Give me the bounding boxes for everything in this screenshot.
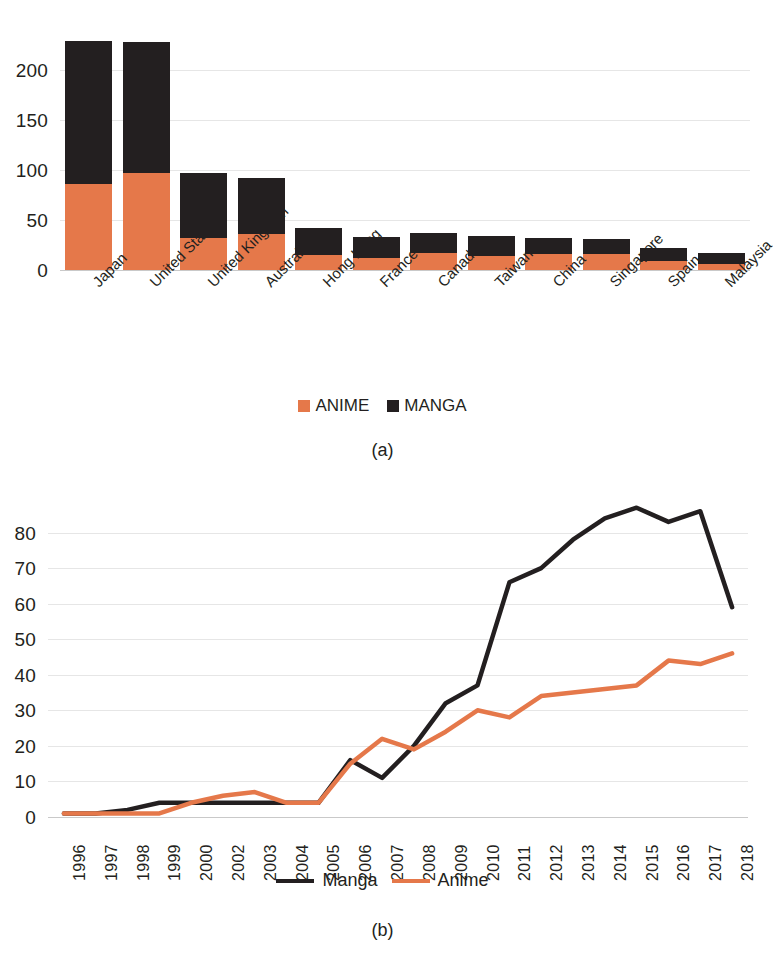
figure-a-stacked-bar: 050100150200 JapanUnited StatesUnited Ki… <box>0 0 765 472</box>
gridline <box>48 817 748 818</box>
bar-segment-manga <box>583 239 630 254</box>
y-axis-tick-label: 80 <box>0 524 36 543</box>
bar-chart-legend: ANIMEMANGA <box>0 396 765 416</box>
legend-label: MANGA <box>404 396 466 416</box>
legend-label: Anime <box>438 870 489 891</box>
y-axis-tick-label: 200 <box>0 61 48 80</box>
bar-segment-manga <box>123 42 170 173</box>
bar-column <box>123 42 170 270</box>
legend-swatch-icon <box>298 400 310 412</box>
legend-line-icon <box>276 879 314 883</box>
y-axis-tick-label: 100 <box>0 161 48 180</box>
figure-b-line-chart: 01020304050607080 1996199719981999200020… <box>0 472 765 957</box>
figure-a-caption: (a) <box>0 440 765 461</box>
legend-item[interactable]: ANIME <box>298 396 369 416</box>
legend-item[interactable]: Anime <box>392 870 489 891</box>
legend-swatch-icon <box>387 400 399 412</box>
line-chart-series-container <box>48 497 748 817</box>
bar-segment-manga <box>410 233 457 253</box>
y-axis-tick-label: 20 <box>0 737 36 756</box>
y-axis-tick-label: 0 <box>0 808 36 827</box>
y-axis-tick-label: 60 <box>0 595 36 614</box>
y-axis-tick-label: 0 <box>0 261 48 280</box>
figure-b-caption: (b) <box>0 920 765 941</box>
legend-line-icon <box>392 879 430 883</box>
y-axis-tick-label: 150 <box>0 111 48 130</box>
y-axis-tick-label: 50 <box>0 630 36 649</box>
bar-segment-manga <box>525 238 572 254</box>
line-series-anime <box>64 653 732 813</box>
line-chart-svg <box>48 497 748 817</box>
legend-label: ANIME <box>315 396 369 416</box>
bar-segment-anime <box>123 173 170 270</box>
y-axis-tick-label: 10 <box>0 772 36 791</box>
legend-item[interactable]: MANGA <box>387 396 466 416</box>
line-chart-legend: MangaAnime <box>0 870 765 891</box>
legend-label: Manga <box>322 870 377 891</box>
line-series-manga <box>64 508 732 814</box>
legend-item[interactable]: Manga <box>276 870 377 891</box>
bar-column <box>65 41 112 270</box>
y-axis-tick-label: 50 <box>0 211 48 230</box>
y-axis-tick-label: 70 <box>0 559 36 578</box>
y-axis-tick-label: 30 <box>0 701 36 720</box>
bar-segment-anime <box>65 184 112 270</box>
y-axis-tick-label: 40 <box>0 666 36 685</box>
bar-segment-manga <box>65 41 112 184</box>
bar-chart-bars <box>60 20 750 270</box>
